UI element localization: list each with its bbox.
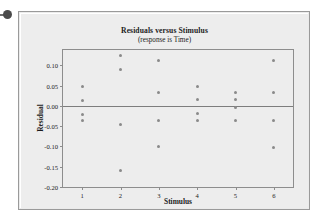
- data-point: [157, 119, 160, 122]
- data-point: [234, 119, 237, 122]
- y-axis-tick: [60, 65, 63, 66]
- y-axis-title: Residual: [36, 104, 45, 132]
- graph-panel-inner: Residuals versus Stimulus (response is T…: [20, 13, 308, 208]
- data-point: [157, 59, 160, 62]
- y-axis-tick-label: 0.10: [46, 62, 58, 69]
- data-point: [234, 98, 237, 101]
- y-axis-tick: [60, 106, 63, 107]
- data-point: [119, 68, 122, 71]
- zero-reference-line: [63, 106, 293, 107]
- y-axis-tick-label: -0.05: [44, 123, 58, 130]
- y-axis-tick-label: -0.20: [44, 184, 58, 191]
- y-axis-tick-label: 0.05: [46, 82, 58, 89]
- x-axis-tick: [236, 187, 237, 190]
- chart-subtitle: (response is Time): [21, 36, 308, 44]
- data-point: [196, 98, 199, 101]
- data-point: [81, 99, 84, 102]
- data-point: [81, 85, 84, 88]
- data-point: [272, 119, 275, 122]
- data-point: [196, 85, 199, 88]
- data-point: [119, 54, 122, 57]
- data-point: [81, 113, 84, 116]
- data-point: [81, 119, 84, 122]
- x-axis-tick: [121, 187, 122, 190]
- data-point: [196, 119, 199, 122]
- x-axis-tick: [82, 187, 83, 190]
- data-point: [119, 169, 122, 172]
- plot-area: 0.100.050.00-0.05-0.10-0.15-0.20123456: [62, 49, 294, 188]
- x-axis-tick: [159, 187, 160, 190]
- data-point: [157, 91, 160, 94]
- y-axis-tick-label: -0.15: [44, 163, 58, 170]
- data-point: [196, 112, 199, 115]
- chart-title: Residuals versus Stimulus: [21, 26, 308, 35]
- y-axis-tick-label: -0.10: [44, 143, 58, 150]
- data-point: [272, 59, 275, 62]
- y-axis-tick: [60, 86, 63, 87]
- data-point: [157, 145, 160, 148]
- x-axis-title: Stimulus: [62, 197, 294, 206]
- graph-panel: Residuals versus Stimulus (response is T…: [18, 11, 310, 210]
- data-point: [119, 123, 122, 126]
- x-axis-tick: [197, 187, 198, 190]
- y-axis-tick: [60, 167, 63, 168]
- y-axis-tick: [60, 187, 63, 188]
- data-point: [272, 146, 275, 149]
- data-point: [272, 91, 275, 94]
- x-axis-tick: [274, 187, 275, 190]
- y-axis-tick: [60, 126, 63, 127]
- data-point: [234, 106, 237, 109]
- y-axis-tick-label: 0.00: [46, 102, 58, 109]
- y-axis-tick: [60, 146, 63, 147]
- bullet-dot-icon: [3, 10, 12, 19]
- data-point: [234, 91, 237, 94]
